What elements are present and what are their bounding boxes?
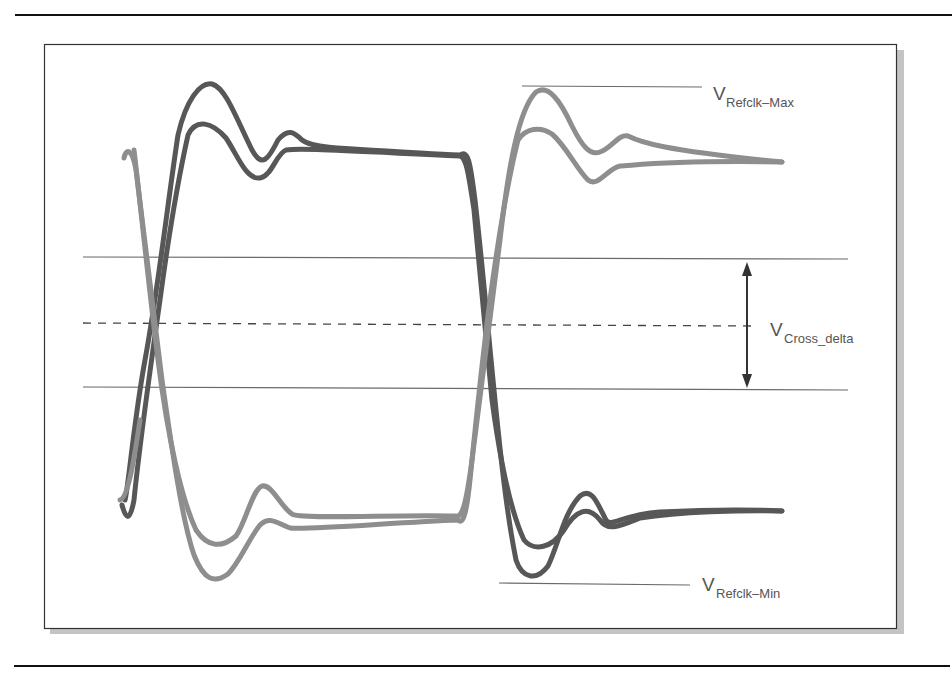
svg-text:Refclk–Max: Refclk–Max — [726, 95, 794, 110]
svg-text:Refclk–Min: Refclk–Min — [716, 586, 780, 601]
document-page: V Refclk–Max V Cross_delta V Refclk–Min — [0, 0, 952, 678]
bottom-page-rule — [14, 665, 511, 667]
figure-frame — [45, 45, 897, 629]
svg-text:Cross_delta: Cross_delta — [784, 331, 854, 346]
svg-text:V: V — [702, 574, 715, 595]
refclk-waveform-diagram: V Refclk–Max V Cross_delta V Refclk–Min — [0, 0, 952, 678]
svg-text:V: V — [713, 83, 726, 104]
bottom-page-rule-right — [510, 665, 950, 667]
svg-text:V: V — [770, 319, 783, 340]
